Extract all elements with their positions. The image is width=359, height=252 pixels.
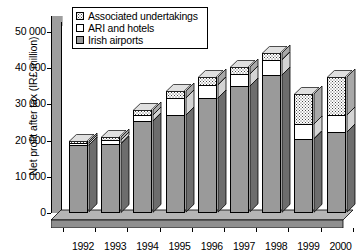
bar-top-face [294,87,320,95]
x-tick-mark [127,228,128,232]
x-tick-mark [160,228,161,232]
bar-segment-divider [134,121,151,122]
bar-segment [230,86,249,213]
x-tick-label: 2000 [324,240,358,252]
legend-label: Irish airports [88,34,143,46]
bar-top-face [230,60,256,68]
x-tick-label: 1995 [163,240,197,252]
bar-top-face [327,70,353,78]
bar-top-face [166,84,192,92]
bar-segment [166,91,185,98]
bar-segment-divider [231,74,248,75]
y-axis-line [61,22,62,213]
x-tick-mark [63,228,64,232]
x-tick-label: 1996 [195,240,229,252]
bar-segment-side [218,98,226,212]
bar-top-face [198,70,224,78]
x-tick-label: 1998 [259,240,293,252]
bar-segment [133,121,152,213]
x-tick-mark [256,228,257,232]
bar-column [294,94,313,213]
bar-segment-side [121,144,129,213]
y-tick-label: 50 000 [0,25,46,37]
bar-segment [198,85,217,98]
bar-segment [230,67,249,74]
bar-segment-divider [70,143,87,144]
bar-segment-side [250,86,258,212]
bar-segment [327,115,346,132]
legend-item: Irish airports [76,34,204,46]
chart-legend: Associated undertakingsARI and hotelsIri… [72,7,208,49]
bar-top-face [133,103,159,111]
bar-segment [198,77,217,85]
bar-segment-divider [263,60,280,61]
x-tick-label: 1997 [227,240,261,252]
bar-segment-side [282,75,290,212]
bar-segment-divider [295,139,312,140]
y-tick-label: 20 000 [0,134,46,146]
legend-label: Associated undertakings [88,10,198,22]
bar-segment [327,132,346,213]
bar-segment-divider [199,98,216,99]
bar-top-face [69,134,95,142]
x-tick-mark [192,228,193,232]
bar-segment-divider [263,75,280,76]
bar-segment [230,74,249,86]
bar-segment-side [186,115,194,212]
x-tick-label: 1993 [98,240,132,252]
legend-item: ARI and hotels [76,22,204,34]
legend-swatch-icon [76,24,84,32]
bar-segment [69,145,88,213]
bar-segment-divider [167,98,184,99]
bar-segment [294,124,313,138]
x-tick-mark [321,228,322,232]
legend-swatch-icon [76,12,84,20]
bar-top-face [101,130,127,138]
bar-segment-divider [295,124,312,125]
bar-segment-divider [199,85,216,86]
bar-column [133,110,152,213]
bar-segment [101,144,120,214]
bar-segment-divider [167,115,184,116]
x-tick-mark [353,228,354,232]
bar-segment [166,115,185,213]
x-tick-label: 1999 [291,240,325,252]
bar-segment-divider [102,140,119,141]
bar-column [69,141,88,213]
y-tick-label: 0 [0,206,46,218]
bar-segment [327,77,346,115]
bar-column [166,91,185,213]
bar-segment [294,94,313,124]
bar-column [327,77,346,213]
bar-segment [262,75,281,213]
x-tick-mark [95,228,96,232]
bar-segment-divider [102,144,119,145]
bar-column [262,53,281,213]
x-tick-label: 1992 [66,240,100,252]
bar-segment-side [314,139,322,212]
y-tick-label: 10 000 [0,170,46,182]
x-tick-label: 1994 [130,240,164,252]
legend-label: ARI and hotels [88,22,154,34]
bar-segment-side [347,132,355,212]
legend-swatch-icon [76,36,84,44]
bar-column [198,77,217,213]
bar-segment [198,98,217,213]
bar-segment [166,98,185,115]
bar-segment [262,60,281,75]
bar-segment-divider [70,145,87,146]
bar-segment-divider [134,115,151,116]
bar-segment-divider [328,115,345,116]
y-tick-label: 40 000 [0,61,46,73]
bar-segment-divider [328,132,345,133]
legend-item: Associated undertakings [76,10,204,22]
y-axis-ticks: 010 00020 00030 00040 00050 000 [0,0,46,242]
bar-top-face [262,46,288,54]
bar-segment-divider [231,86,248,87]
bar-column [101,137,120,213]
bar-column [230,67,249,213]
bar-segment-side [153,121,161,212]
bar-segment [294,139,313,213]
x-tick-mark [224,228,225,232]
